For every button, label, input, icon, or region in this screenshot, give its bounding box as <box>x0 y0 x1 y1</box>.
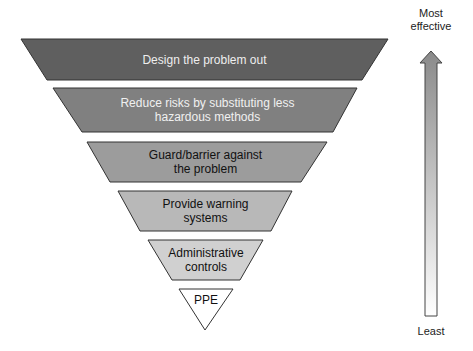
least-effective-label: Least <box>401 325 461 338</box>
level-4-label-line2: systems <box>140 211 271 225</box>
level-5-label: Administrative controls <box>160 246 252 274</box>
most-effective-line1: Most <box>401 7 461 20</box>
most-effective-label: Most effective <box>401 7 461 33</box>
level-2-label-line2: hazardous methods <box>82 110 333 124</box>
level-3-label-line2: the problem <box>110 162 301 176</box>
level-5-label-line2: controls <box>160 260 252 274</box>
level-3-label-line1: Guard/barrier against <box>110 148 301 162</box>
level-6-label: PPE <box>185 293 227 307</box>
level-2-label: Reduce risks by substituting less hazard… <box>82 96 333 124</box>
hierarchy-of-controls-diagram: Design the problem out Reduce risks by s… <box>0 0 473 351</box>
effectiveness-arrow-icon <box>420 51 442 316</box>
most-effective-line2: effective <box>401 20 461 33</box>
level-4-label-line1: Provide warning <box>140 197 271 211</box>
level-4-label: Provide warning systems <box>140 197 271 225</box>
level-5-label-line1: Administrative <box>160 246 252 260</box>
level-3-label: Guard/barrier against the problem <box>110 148 301 176</box>
level-1-label: Design the problem out <box>47 53 362 67</box>
level-2-label-line1: Reduce risks by substituting less <box>82 96 333 110</box>
